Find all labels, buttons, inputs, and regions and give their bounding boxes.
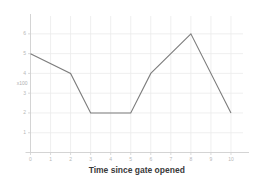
x-tick-label: 5 bbox=[129, 156, 132, 162]
x-tick-label: 7 bbox=[169, 156, 172, 162]
x-tick-label: 9 bbox=[210, 156, 213, 162]
y-tick-label: 5 bbox=[23, 50, 26, 56]
y-tick-label: 3 bbox=[23, 90, 26, 96]
y-axis-unit-label: x100 bbox=[17, 80, 28, 86]
x-axis-title: Time since gate opened bbox=[89, 165, 185, 175]
y-tick-label: 4 bbox=[23, 70, 26, 76]
x-tick-label: 0 bbox=[29, 156, 32, 162]
line-chart-figure: 012345678910 123456 x100 Time since gate… bbox=[0, 0, 271, 186]
x-tick-label: 10 bbox=[228, 156, 234, 162]
x-tick-label: 2 bbox=[69, 156, 72, 162]
y-tick-label: 6 bbox=[23, 30, 26, 36]
x-tick-label: 6 bbox=[149, 156, 152, 162]
x-tick-label: 3 bbox=[89, 156, 92, 162]
x-tick-label: 4 bbox=[109, 156, 112, 162]
y-tick-label: 1 bbox=[23, 129, 26, 135]
y-tick-label: 2 bbox=[23, 109, 26, 115]
chart-canvas: 012345678910 123456 x100 Time since gate… bbox=[0, 0, 271, 186]
x-tick-label: 8 bbox=[189, 156, 192, 162]
x-tick-label: 1 bbox=[49, 156, 52, 162]
